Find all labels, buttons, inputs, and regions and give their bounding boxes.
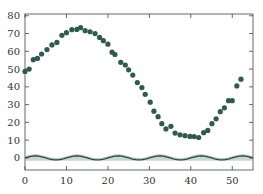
- x-tick-label: 40: [184, 175, 197, 186]
- oscillation-light-line: [25, 155, 253, 159]
- data-points: [22, 25, 243, 140]
- x-tick-label: 30: [143, 175, 156, 186]
- y-tick-label: 40: [7, 81, 20, 92]
- data-point: [118, 60, 123, 65]
- data-point: [148, 100, 153, 105]
- data-point: [205, 128, 210, 133]
- data-point: [126, 67, 131, 72]
- data-point: [209, 121, 214, 126]
- data-point: [49, 42, 54, 47]
- data-point: [192, 134, 197, 139]
- data-point: [112, 52, 117, 57]
- y-tick-label: 60: [7, 46, 20, 57]
- data-point: [159, 121, 164, 126]
- data-point: [143, 92, 148, 97]
- x-tick-label: 20: [102, 175, 115, 186]
- data-point: [139, 85, 144, 90]
- data-point: [238, 77, 243, 82]
- data-point: [64, 30, 69, 35]
- data-point: [130, 73, 135, 78]
- data-point: [44, 47, 49, 52]
- data-point: [35, 56, 40, 61]
- y-tick-label: 30: [7, 99, 20, 110]
- oscillation-band: [25, 155, 253, 161]
- scatter-chart: 01020304050 01020304050607080: [0, 0, 263, 194]
- data-point: [78, 25, 83, 30]
- data-point: [177, 132, 182, 137]
- data-point: [151, 109, 156, 114]
- plot-area: [22, 14, 253, 170]
- data-point: [196, 135, 201, 140]
- y-tick-label: 80: [7, 10, 20, 21]
- data-point: [218, 109, 223, 114]
- y-axis: 01020304050607080: [7, 10, 253, 163]
- y-tick-label: 20: [7, 117, 20, 128]
- data-point: [54, 40, 59, 45]
- data-point: [172, 130, 177, 135]
- data-point: [182, 133, 187, 138]
- data-point: [155, 114, 160, 119]
- data-point: [87, 29, 92, 34]
- data-point: [222, 105, 227, 110]
- data-point: [39, 51, 44, 56]
- data-point: [230, 98, 235, 103]
- data-point: [59, 33, 64, 38]
- x-tick-label: 50: [226, 175, 239, 186]
- data-point: [69, 27, 74, 32]
- y-tick-label: 50: [7, 64, 20, 75]
- oscillation-dark-line: [25, 156, 253, 160]
- y-tick-label: 0: [14, 152, 20, 163]
- data-point: [123, 62, 128, 67]
- plot-frame: [25, 14, 253, 170]
- data-point: [163, 126, 168, 131]
- data-point: [92, 31, 97, 36]
- x-tick-label: 10: [60, 175, 73, 186]
- data-point: [135, 80, 140, 85]
- data-point: [83, 28, 88, 33]
- data-point: [101, 38, 106, 43]
- data-point: [105, 42, 110, 47]
- data-point: [168, 124, 173, 129]
- y-tick-label: 70: [7, 28, 20, 39]
- y-tick-label: 10: [7, 135, 20, 146]
- data-point: [214, 116, 219, 121]
- data-point: [234, 83, 239, 88]
- x-tick-label: 0: [22, 175, 28, 186]
